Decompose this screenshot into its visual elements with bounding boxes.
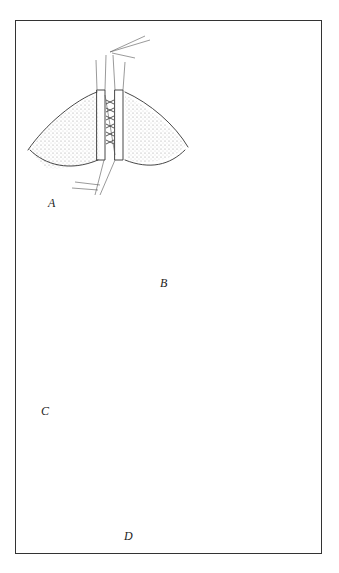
- panel-label-c: C: [41, 404, 49, 419]
- panel-label-a: A: [48, 196, 55, 211]
- illustration-canvas: [0, 0, 339, 573]
- panel-label-b: B: [160, 276, 167, 291]
- panel-a-drawing: [28, 36, 188, 195]
- panel-label-d: D: [124, 529, 133, 544]
